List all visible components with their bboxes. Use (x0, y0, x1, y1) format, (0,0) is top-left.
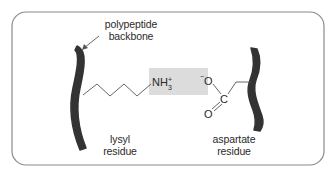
lysyl-label-line2: residue (100, 145, 140, 157)
carboxylate-oxygen-double: O (204, 108, 213, 120)
aspartate-residue-label: aspartate residue (204, 133, 264, 157)
carboxylate-oxygen-single: −O (200, 75, 213, 87)
ammonium-subscript: 3 (168, 82, 172, 94)
carboxylate-double-bond-a (212, 102, 220, 109)
carboxyl-carbon: C (220, 93, 228, 105)
left-backbone-strand (71, 46, 86, 150)
backbone-label-line2: backbone (96, 30, 166, 42)
ammonium-group: NH+3 (152, 76, 174, 88)
ammonium-nh: NH (152, 76, 168, 88)
carboxylate-double-bond-b (214, 104, 222, 111)
backbone-label-line1: polypeptide (96, 18, 166, 30)
ammonium-charge-subscript: +3 (168, 76, 174, 88)
lysyl-residue-label: lysyl residue (100, 133, 140, 157)
backbone-pointer-arrowhead (82, 44, 88, 50)
lysyl-label-line1: lysyl (100, 133, 140, 145)
oxygen-single: O (204, 75, 213, 87)
aspartate-label-line1: aspartate (204, 133, 264, 145)
lysine-side-chain (83, 84, 151, 96)
salt-bridge-diagram: polypeptide backbone lysyl residue aspar… (0, 0, 334, 178)
right-backbone-strand (248, 48, 263, 131)
backbone-label: polypeptide backbone (96, 18, 166, 42)
carboxylate-charge: − (200, 73, 204, 80)
aspartate-label-line2: residue (204, 145, 264, 157)
